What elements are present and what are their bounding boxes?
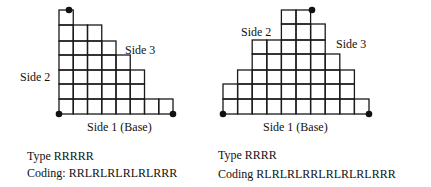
- grid-cell: [102, 84, 116, 99]
- side2-label: Side 2: [241, 25, 271, 39]
- grid-cell: [296, 10, 311, 24]
- grid-cell: [88, 55, 102, 70]
- grid-cell: [102, 41, 116, 55]
- vertex-dot: [66, 7, 73, 14]
- grid-cell: [311, 70, 326, 84]
- grid-cell: [340, 70, 355, 84]
- grid-cell: [88, 84, 102, 99]
- grid-cell: [252, 70, 267, 84]
- grid-cell: [59, 41, 73, 55]
- type-label: Type RRRR: [218, 148, 277, 162]
- grid-cell: [267, 70, 282, 84]
- grid-cell: [116, 84, 130, 99]
- grid-cell: [325, 84, 340, 99]
- grid-cell: [59, 84, 73, 99]
- grid-cell: [281, 99, 296, 114]
- staircase-diagram: Side 1 (Base) Side 2 Side 3 Type RRRRR C…: [0, 0, 431, 187]
- staircase-grid-left: [59, 10, 173, 114]
- grid-cell: [73, 41, 87, 55]
- grid-cell: [267, 40, 282, 54]
- grid-cell: [73, 84, 87, 99]
- grid-cell: [73, 25, 87, 41]
- grid-cell: [311, 99, 326, 114]
- grid-cell: [59, 55, 73, 70]
- grid-cell: [340, 99, 355, 114]
- side3-label: Side 3: [336, 37, 366, 51]
- grid-cell: [296, 24, 311, 40]
- grid-cell: [102, 70, 116, 84]
- side3-label: Side 3: [125, 43, 155, 57]
- grid-cell: [281, 10, 296, 24]
- figure-right: Side 1 (Base) Side 2 Side 3 Type RRRR Co…: [218, 7, 396, 181]
- grid-cell: [252, 84, 267, 99]
- grid-cell: [73, 99, 87, 114]
- grid-cell: [88, 99, 102, 114]
- grid-cell: [311, 54, 326, 70]
- grid-cell: [311, 24, 326, 40]
- grid-cell: [296, 99, 311, 114]
- grid-cell: [267, 84, 282, 99]
- grid-cell: [296, 70, 311, 84]
- vertex-dot: [366, 111, 373, 118]
- grid-cell: [281, 24, 296, 40]
- grid-cell: [281, 70, 296, 84]
- coding-label: Coding RLRLRLRRLRLRLRLRRR: [218, 167, 396, 181]
- side1-base-label: Side 1 (Base): [87, 120, 152, 134]
- grid-cell: [102, 55, 116, 70]
- grid-cell: [88, 41, 102, 55]
- grid-cell: [340, 84, 355, 99]
- grid-cell: [59, 25, 73, 41]
- grid-cell: [88, 70, 102, 84]
- grid-cell: [145, 99, 159, 114]
- grid-cell: [311, 40, 326, 54]
- grid-cell: [296, 40, 311, 54]
- grid-cell: [238, 84, 253, 99]
- figure-left: Side 1 (Base) Side 2 Side 3 Type RRRRR C…: [20, 7, 177, 180]
- grid-cell: [296, 84, 311, 99]
- grid-cell: [130, 99, 144, 114]
- grid-cell: [296, 54, 311, 70]
- grid-cell: [73, 70, 87, 84]
- grid-cell: [130, 70, 144, 84]
- grid-cell: [73, 55, 87, 70]
- grid-cell: [281, 84, 296, 99]
- grid-cell: [102, 99, 116, 114]
- grid-cell: [238, 70, 253, 84]
- coding-label: Coding: RRLRLRLRLRLRRR: [27, 166, 177, 180]
- grid-cell: [252, 54, 267, 70]
- vertex-dot: [56, 111, 63, 118]
- grid-cell: [252, 99, 267, 114]
- grid-cell: [238, 99, 253, 114]
- vertex-dot: [170, 111, 177, 118]
- grid-cell: [325, 54, 340, 70]
- grid-cell: [311, 84, 326, 99]
- grid-cell: [130, 84, 144, 99]
- grid-cell: [267, 54, 282, 70]
- side2-label: Side 2: [20, 70, 50, 84]
- type-label: Type RRRRR: [27, 149, 94, 163]
- vertex-dot: [309, 7, 316, 14]
- grid-cell: [116, 99, 130, 114]
- grid-cell: [223, 84, 238, 99]
- grid-cell: [281, 40, 296, 54]
- grid-cell: [88, 25, 102, 41]
- grid-cell: [116, 70, 130, 84]
- grid-cell: [252, 40, 267, 54]
- grid-cell: [325, 70, 340, 84]
- grid-cell: [325, 99, 340, 114]
- side1-base-label: Side 1 (Base): [263, 120, 328, 134]
- grid-cell: [59, 70, 73, 84]
- grid-cell: [267, 99, 282, 114]
- grid-cell: [116, 55, 130, 70]
- grid-cell: [281, 54, 296, 70]
- vertex-dot: [220, 111, 227, 118]
